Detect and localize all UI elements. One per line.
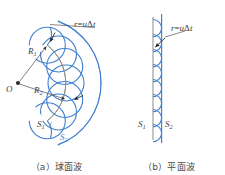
panel-spherical-wave: O R1 R2 S1 S2 r=uΔt （a）球面波 [0,0,113,175]
huygens-principle-figure: O R1 R2 S1 S2 r=uΔt （a）球面波 [0,0,225,175]
label-source-o: O [6,85,13,94]
label-surface-s1: S1 [37,120,45,129]
caption-panel-a: （a）球面波 [0,160,113,173]
label-surface-s2: S2 [165,120,173,129]
label-wavelet-radius-formula: r=uΔt [74,20,95,29]
wavelet-tail-top [47,28,51,45]
label-surface-s1: S1 [138,120,146,129]
panel-plane-wave: S1 S2 r=uΔt （b）平面波 [113,0,225,175]
caption-panel-b: （b）平面波 [113,160,225,173]
label-radius-r2: R2 [34,86,43,95]
label-wavelet-radius-formula: r=uΔt [171,24,192,33]
wavelet-circle [47,49,83,85]
panel-a-drawing [0,0,113,150]
label-radius-r1: R1 [28,47,37,56]
secondary-wavelets-group [153,20,162,142]
wavelet-circle [47,82,83,118]
wave-source-point [16,81,20,85]
label-surface-s2: S2 [60,133,68,142]
